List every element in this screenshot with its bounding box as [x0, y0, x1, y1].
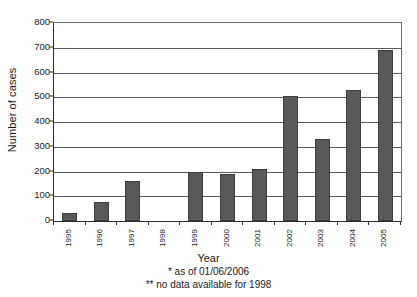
- bar-slot: [86, 23, 118, 221]
- x-axis-title: Year: [0, 252, 417, 265]
- y-tick-label: 100: [22, 191, 50, 201]
- y-tick-mark: [49, 220, 53, 221]
- bar-slot: [117, 23, 149, 221]
- bar-series: [54, 23, 401, 221]
- footnote-asterisk: * as of 01/06/2006: [0, 265, 417, 278]
- y-tick-label: 300: [22, 141, 50, 151]
- bar-chart-figure: Number of cases 010020030040050060070080…: [0, 0, 417, 297]
- bar-slot: [275, 23, 307, 221]
- x-tick-label: 1999: [191, 229, 199, 247]
- x-tick-label: 1995: [65, 229, 73, 247]
- x-label-slot: 2004: [337, 225, 369, 251]
- x-tick-label: 2001: [254, 229, 262, 247]
- bar-2003: [315, 139, 330, 221]
- bar-slot: [338, 23, 370, 221]
- y-tick-mark: [49, 170, 53, 171]
- bar-2002: [283, 96, 298, 221]
- bar-slot: [54, 23, 86, 221]
- bar-slot: [369, 23, 401, 221]
- x-tick-label: 2005: [380, 229, 388, 247]
- bar-2005: [378, 50, 393, 221]
- y-tick-label: 400: [22, 116, 50, 126]
- y-axis-tick-labels: 0100200300400500600700800: [22, 22, 50, 220]
- x-tick-label: 1998: [159, 229, 167, 247]
- y-tick-mark: [49, 46, 53, 47]
- y-tick-label: 200: [22, 166, 50, 176]
- bar-1995: [62, 213, 77, 221]
- bar-slot: [180, 23, 212, 221]
- x-label-slot: 2001: [242, 225, 274, 251]
- y-axis-title: Number of cases: [2, 0, 22, 220]
- bar-1997: [125, 181, 140, 221]
- plot-area: [53, 22, 402, 222]
- x-axis-tick-labels: 1995199619971998199920002001200220032004…: [53, 225, 400, 251]
- footnote-double-asterisk: ** no data available for 1998: [0, 278, 417, 291]
- bar-1999: [188, 172, 203, 222]
- x-tick-label: 2003: [317, 229, 325, 247]
- x-tick-label: 2002: [286, 229, 294, 247]
- x-label-slot: 1999: [179, 225, 211, 251]
- x-label-slot: 2005: [368, 225, 400, 251]
- y-axis-title-text: Number of cases: [6, 68, 18, 153]
- y-tick-label: 600: [22, 67, 50, 77]
- y-tick-label: 800: [22, 17, 50, 27]
- bar-slot: [212, 23, 244, 221]
- y-tick-mark: [49, 96, 53, 97]
- x-label-slot: 1997: [116, 225, 148, 251]
- x-label-slot: 1995: [53, 225, 85, 251]
- y-tick-mark: [49, 145, 53, 146]
- bar-1996: [94, 202, 109, 221]
- x-label-slot: 1998: [148, 225, 180, 251]
- x-tick-label: 1997: [128, 229, 136, 247]
- y-tick-mark: [49, 121, 53, 122]
- x-label-slot: 2003: [305, 225, 337, 251]
- x-label-slot: 1996: [85, 225, 117, 251]
- x-tick-label: 2000: [223, 229, 231, 247]
- y-tick-label: 0: [22, 215, 50, 225]
- y-tick-label: 500: [22, 92, 50, 102]
- chart-captions: Year * as of 01/06/2006 ** no data avail…: [0, 252, 417, 291]
- bar-slot: [306, 23, 338, 221]
- x-tick-label: 2004: [349, 229, 357, 247]
- x-tick-mark: [400, 221, 401, 225]
- y-tick-label: 700: [22, 42, 50, 52]
- y-tick-mark: [49, 71, 53, 72]
- x-tick-label: 1996: [96, 229, 104, 247]
- x-label-slot: 2002: [274, 225, 306, 251]
- bar-slot: [149, 23, 181, 221]
- bar-2001: [252, 169, 267, 221]
- y-tick-mark: [49, 22, 53, 23]
- bar-2000: [220, 174, 235, 221]
- y-tick-mark: [49, 195, 53, 196]
- bar-2004: [346, 90, 361, 221]
- x-label-slot: 2000: [211, 225, 243, 251]
- bar-slot: [243, 23, 275, 221]
